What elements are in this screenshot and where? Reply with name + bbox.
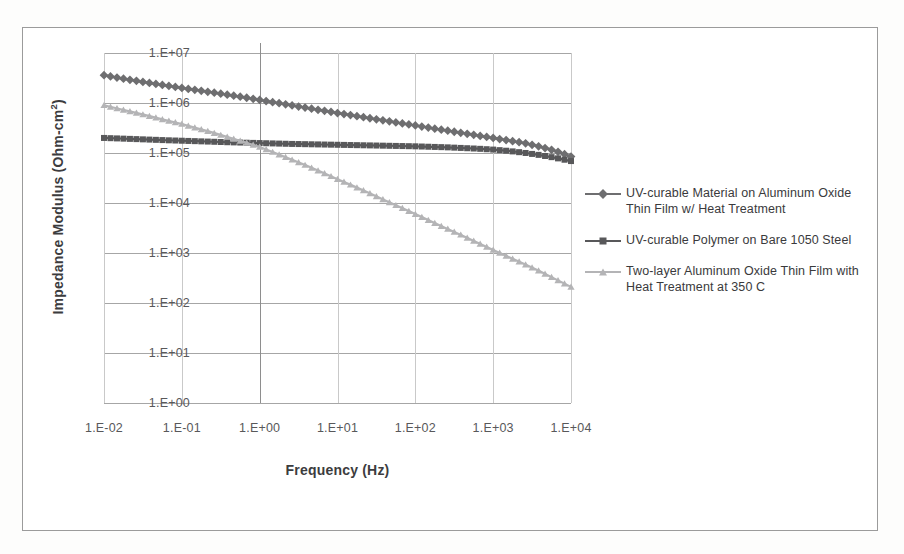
square-marker [425,144,431,150]
diamond-marker [353,112,362,121]
x-axis-title: Frequency (Hz) [104,462,571,478]
square-marker [205,139,211,145]
square-marker [373,143,379,149]
diamond-marker [443,126,452,135]
diamond-marker [417,122,426,131]
square-marker [445,144,451,150]
y-axis-title: Impedance Modulus (Ohm-cm2) [48,57,66,357]
diamond-marker [495,135,504,144]
diamond-marker [275,99,284,108]
diamond-marker [391,118,400,127]
diamond-marker [534,142,543,151]
diamond-marker [541,144,550,153]
square-marker [315,141,321,147]
square-marker [432,144,438,150]
diamond-marker [229,91,238,100]
diamond-marker [223,90,232,99]
diamond-marker [430,124,439,133]
square-marker [335,142,341,148]
x-tick-label: 1.E-02 [85,421,123,435]
diamond-marker [346,111,355,120]
diamond-marker [210,88,219,97]
x-tick-label: 1.E+02 [395,421,436,435]
diamond-marker [521,139,530,148]
legend-entry[interactable]: UV-curable Material on Aluminum Oxide Th… [585,185,867,217]
y-tick-label: 1.E+05 [149,146,190,160]
diamond-marker [469,130,478,139]
square-marker [276,141,282,147]
legend-label: UV-curable Polymer on Bare 1050 Steel [626,232,851,248]
diamond-marker [320,106,329,115]
square-marker [263,140,269,146]
y-tick-label: 1.E+03 [149,246,190,260]
diamond-marker [242,93,251,102]
diamond-marker [340,110,349,119]
diamond-marker [236,92,245,101]
diamond-marker [482,133,491,142]
square-marker [477,146,483,152]
diamond-marker [262,97,271,106]
diamond-marker [379,116,388,125]
square-marker [406,143,412,149]
diamond-marker [255,96,264,105]
diamond-marker [515,138,524,147]
x-tick-label: 1.E+04 [550,421,591,435]
diamond-marker [411,121,420,130]
x-axis-tick-labels: 1.E-021.E-011.E+001.E+011.E+021.E+031.E+… [104,421,571,441]
square-marker [198,138,204,144]
legend-entry[interactable]: UV-curable Polymer on Bare 1050 Steel [585,232,867,248]
square-marker [412,143,418,149]
square-marker [354,142,360,148]
square-marker [309,141,315,147]
square-marker [542,153,548,159]
gridline-vertical [571,53,572,403]
x-tick-label: 1.E-01 [163,421,201,435]
legend-swatch-square [585,234,621,248]
square-marker [490,147,496,153]
square-marker [510,148,516,154]
square-marker [536,152,542,158]
diamond-marker [404,120,413,129]
diamond-marker [508,137,517,146]
square-marker [328,142,334,148]
diamond-marker [281,100,290,109]
diamond-marker [301,103,310,112]
square-marker [302,141,308,147]
square-marker [322,142,328,148]
diamond-marker [327,108,336,117]
page-background: Impedance Modulus (Ohm-cm2) 1.E+001.E+01… [0,0,904,554]
square-icon [600,238,607,245]
square-marker [270,140,276,146]
y-tick-label: 1.E+07 [149,46,190,60]
x-tick-label: 1.E+01 [317,421,358,435]
square-marker [555,155,561,161]
square-marker [347,142,353,148]
square-marker [211,139,217,145]
diamond-marker [294,102,303,111]
square-marker [289,141,295,147]
square-marker [438,144,444,150]
diamond-icon [598,189,608,199]
y-tick-label: 1.E+00 [149,396,190,410]
diamond-marker [463,129,472,138]
diamond-marker [372,115,381,124]
square-marker [458,145,464,151]
square-marker [367,142,373,148]
square-marker [380,143,386,149]
square-marker [562,157,568,163]
diamond-marker [398,119,407,128]
diamond-marker [456,128,465,137]
y-axis-tick-labels: 1.E+001.E+011.E+021.E+031.E+041.E+051.E+… [104,53,190,403]
legend-swatch-diamond [585,187,621,201]
square-marker [568,158,574,164]
chart-legend: UV-curable Material on Aluminum Oxide Th… [585,185,867,310]
diamond-marker [307,104,316,113]
square-marker [393,143,399,149]
legend-label: Two-layer Aluminum Oxide Thin Film with … [626,263,867,295]
legend-label: UV-curable Material on Aluminum Oxide Th… [626,185,867,217]
square-marker [471,146,477,152]
square-marker [296,141,302,147]
square-marker [529,151,535,157]
square-marker [283,141,289,147]
legend-entry[interactable]: Two-layer Aluminum Oxide Thin Film with … [585,263,867,295]
